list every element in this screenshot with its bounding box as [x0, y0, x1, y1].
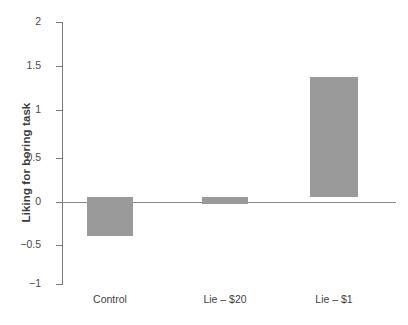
- y-tick-label: 0: [1, 195, 41, 207]
- x-tick-label-lie-20: Lie – $20: [165, 293, 285, 305]
- y-tick-mark: [56, 158, 62, 159]
- x-tick-label-lie-1: Lie – $1: [274, 293, 394, 305]
- y-tick-label: −0.5: [1, 238, 41, 250]
- bar-control[interactable]: [87, 197, 133, 236]
- y-tick-1_5: 1.5: [0, 66, 396, 67]
- bar-lie-20[interactable]: [202, 197, 248, 204]
- y-tick-mark: [56, 284, 62, 285]
- y-tick-label: 0.5: [1, 151, 41, 163]
- y-tick-mark: [56, 245, 62, 246]
- y-axis-title: Liking for boring task: [26, 0, 130, 325]
- bar-lie-1[interactable]: [310, 77, 358, 197]
- y-tick-mark: [56, 66, 62, 67]
- bar-chart: Liking for boring task 2 1.5 1 0.5 0 −0.…: [0, 0, 408, 325]
- y-tick-label: 1: [1, 103, 41, 115]
- y-tick-label: 2: [1, 15, 41, 27]
- y-tick-label: 1.5: [1, 59, 41, 71]
- x-tick-label-control: Control: [50, 293, 170, 305]
- y-tick-2: 2: [0, 22, 396, 23]
- y-tick-mark: [56, 22, 62, 23]
- y-tick-mark: [56, 202, 62, 203]
- y-tick-0: 0: [0, 202, 396, 203]
- y-tick-neg1: −1: [0, 284, 396, 285]
- y-tick-mark: [56, 110, 62, 111]
- y-tick-label: −1: [1, 277, 41, 289]
- y-tick-neg0_5: −0.5: [0, 245, 396, 246]
